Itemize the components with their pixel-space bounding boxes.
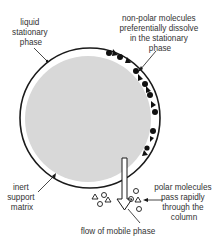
support-matrix-pointer (38, 175, 55, 192)
label-inert-support-matrix: inert support matrix (7, 183, 37, 212)
non-polar-pointer (140, 51, 156, 70)
support-matrix (25, 56, 151, 182)
polar-molecules (92, 189, 142, 212)
stationary-phase-pointer (34, 48, 48, 62)
label-polar-molecules: polar molecules pass rapidly through the… (154, 183, 214, 222)
label-liquid-stationary-phase: liquid stationary phase (12, 18, 50, 47)
label-non-polar-molecules: non-polar molecules preferentially disso… (119, 14, 200, 53)
label-flow-of-mobile-phase: flow of mobile phase (81, 227, 156, 236)
chromatography-diagram: liquid stationary phase non-polar molecu… (0, 0, 216, 246)
